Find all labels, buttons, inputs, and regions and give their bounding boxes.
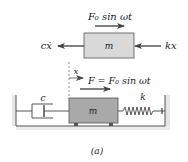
mass-label: m — [89, 106, 98, 116]
spring — [118, 107, 165, 115]
applied-force-label: F = F₀ sin ωt — [87, 75, 151, 86]
right-wall-shade — [165, 95, 170, 129]
wheel-right — [109, 123, 113, 126]
fbd-applied-force-label: F₀ sin ωt — [87, 11, 133, 22]
left-wall-shade — [12, 95, 16, 126]
floor-shade — [16, 126, 170, 130]
damper-label: c — [40, 93, 45, 103]
fbd-mass-label: m — [105, 41, 114, 51]
fbd-damping-force-label: cẋ — [41, 40, 53, 51]
wheel-left — [74, 123, 78, 126]
spring-label: k — [140, 92, 145, 102]
mass-spring-damper-diagram: F₀ sin ωt m cẋ kx x F = F₀ sin ωt c m — [0, 0, 188, 162]
displacement-label: x — [74, 67, 79, 76]
physical-system: x F = F₀ sin ωt c m k — [12, 62, 170, 130]
figure-caption: (a) — [91, 146, 104, 156]
fbd-spring-force-label: kx — [165, 40, 177, 51]
free-body-diagram: F₀ sin ωt m cẋ kx — [41, 11, 177, 58]
